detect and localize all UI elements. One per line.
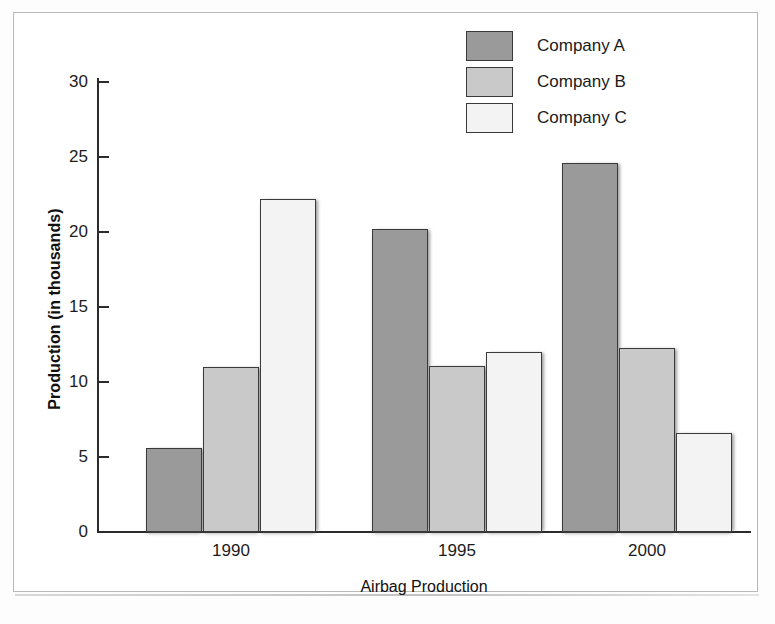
- x-axis-title: Airbag Production: [97, 578, 751, 596]
- x-axis-category-label: 1995: [397, 541, 517, 561]
- y-axis-tick: [99, 456, 109, 458]
- x-axis-category-label: 2000: [587, 541, 707, 561]
- legend-label: Company C: [537, 108, 627, 128]
- y-axis-tick: [99, 306, 109, 308]
- y-axis-tick: [99, 231, 109, 233]
- y-axis-tick: [99, 81, 109, 83]
- legend-item: Company C: [466, 100, 716, 136]
- bar: [372, 229, 428, 532]
- legend-item: Company A: [466, 28, 716, 64]
- legend-label: Company B: [537, 72, 626, 92]
- bar: [429, 366, 485, 533]
- bar: [676, 433, 732, 532]
- y-axis-tick: [99, 531, 109, 533]
- legend: Company ACompany BCompany C: [466, 28, 716, 136]
- bar: [619, 348, 675, 533]
- legend-label: Company A: [537, 36, 625, 56]
- y-axis-tick-label-text: 0: [48, 523, 88, 540]
- y-axis-tick-label: 0: [42, 523, 88, 540]
- legend-swatch: [466, 103, 513, 133]
- bar: [146, 448, 202, 532]
- legend-swatch: [466, 31, 513, 61]
- y-axis-title: Production (in thousands): [46, 159, 64, 459]
- figure: 051015202530 Production (in thousands) 1…: [0, 0, 775, 624]
- bar: [562, 163, 618, 532]
- legend-swatch: [466, 67, 513, 97]
- bar: [203, 367, 259, 532]
- x-axis-category-label: 1990: [171, 541, 291, 561]
- legend-item: Company B: [466, 64, 716, 100]
- y-axis-tick-label-text: 30: [48, 73, 88, 90]
- bar: [486, 352, 542, 532]
- y-axis-tick-label: 30: [42, 73, 88, 90]
- y-axis-tick: [99, 381, 109, 383]
- y-axis-tick: [99, 156, 109, 158]
- bar: [260, 199, 316, 532]
- bar-chart-plot: 051015202530 Production (in thousands) 1…: [0, 0, 775, 624]
